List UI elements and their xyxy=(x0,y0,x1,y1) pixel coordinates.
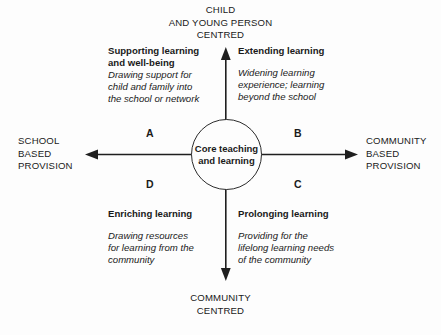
quadrant-a-title: Supporting learning and well-being xyxy=(108,45,232,69)
axis-label-right: COMMUNITY BASED PROVISION xyxy=(366,135,427,173)
quadrant-letter-c: C xyxy=(294,178,302,190)
axis-label-bottom: COMMUNITY CENTRED xyxy=(0,292,441,317)
quadrant-b-body: Widening learning experience; learning b… xyxy=(238,67,362,104)
quadrant-letter-d: D xyxy=(146,178,154,190)
quadrant-letter-a: A xyxy=(146,127,154,139)
quadrant-a: Supporting learning and well-being Drawi… xyxy=(108,45,232,105)
arrowhead-west xyxy=(85,150,98,160)
quadrant-b-title: Extending learning xyxy=(238,45,362,57)
quadrant-d-body: Drawing resources for learning from the … xyxy=(108,230,232,267)
quadrant-letter-b: B xyxy=(294,127,302,139)
quadrant-a-body: Drawing support for child and family int… xyxy=(108,69,232,106)
axis-label-top: CHILD AND YOUNG PERSON CENTRED xyxy=(0,4,441,42)
axis-label-left: SCHOOL BASED PROVISION xyxy=(18,135,73,173)
quadrant-d: Enriching learning Drawing resources for… xyxy=(108,208,232,266)
diagram-canvas: Core teaching and learning CHILD AND YOU… xyxy=(0,0,441,335)
quadrant-c: Prolonging learning Providing for the li… xyxy=(238,208,362,266)
quadrant-b: Extending learning Widening learning exp… xyxy=(238,45,362,103)
arrowhead-east xyxy=(345,150,358,160)
quadrant-c-body: Providing for the lifelong learning need… xyxy=(238,230,362,267)
quadrant-d-title: Enriching learning xyxy=(108,208,232,220)
core-circle: Core teaching and learning xyxy=(191,119,262,190)
arrowhead-south xyxy=(221,268,231,281)
core-circle-label: Core teaching and learning xyxy=(192,143,261,166)
quadrant-c-title: Prolonging learning xyxy=(238,208,362,220)
